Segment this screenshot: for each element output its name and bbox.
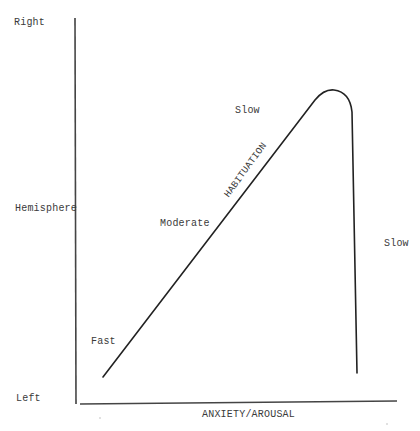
speck <box>99 417 101 419</box>
annotation-moderate: Moderate <box>160 218 210 229</box>
annotation-slow-right: Slow <box>384 238 409 249</box>
speck <box>386 423 388 425</box>
x-axis-label: ANXIETY/AROUSAL <box>202 409 295 420</box>
annotation-fast: Fast <box>91 336 116 347</box>
y-axis-bottom-label: Left <box>16 393 41 404</box>
y-axis-top-label: Right <box>14 17 45 28</box>
x-axis-line <box>80 401 397 404</box>
annotation-slow-top: Slow <box>235 105 260 116</box>
diagram-canvas <box>0 0 420 431</box>
y-axis-middle-label: Hemisphere <box>15 203 77 214</box>
habituation-curve <box>103 90 357 377</box>
